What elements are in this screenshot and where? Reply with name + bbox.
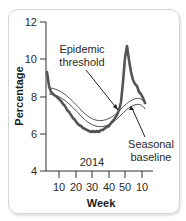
- seasonal-baseline-label: Seasonal: [128, 138, 174, 150]
- y-tick-label: 4: [31, 165, 37, 177]
- line-chart: 12 10 8 6 4 10 20 30 40 50 10 Week Perce…: [0, 0, 186, 221]
- y-tick-label: 12: [25, 16, 37, 28]
- x-tick-label: 50: [119, 181, 131, 193]
- y-axis-title: Percentage: [13, 66, 25, 125]
- epidemic-threshold-label: Epidemic: [59, 43, 105, 55]
- y-tick-label: 10: [25, 53, 37, 65]
- x-tick-label: 10: [136, 181, 148, 193]
- x-tick-label: 10: [53, 181, 65, 193]
- x-tick-label: 30: [86, 181, 98, 193]
- epidemic-threshold-label-2: threshold: [59, 56, 104, 68]
- y-ticks: [40, 22, 46, 134]
- seasonal-baseline-line: [49, 94, 145, 127]
- y-tick-label: 8: [31, 91, 37, 103]
- epidemic-threshold-pointer: [86, 70, 118, 110]
- x-axis-title: Week: [87, 197, 116, 209]
- x-ticks: [59, 171, 142, 178]
- y-tick-label: 6: [31, 128, 37, 140]
- year-label: 2014: [80, 156, 104, 168]
- seasonal-baseline-label-2: baseline: [131, 151, 172, 163]
- x-tick-label: 20: [70, 181, 82, 193]
- x-tick-label: 40: [103, 181, 115, 193]
- seasonal-baseline-pointer: [131, 106, 145, 137]
